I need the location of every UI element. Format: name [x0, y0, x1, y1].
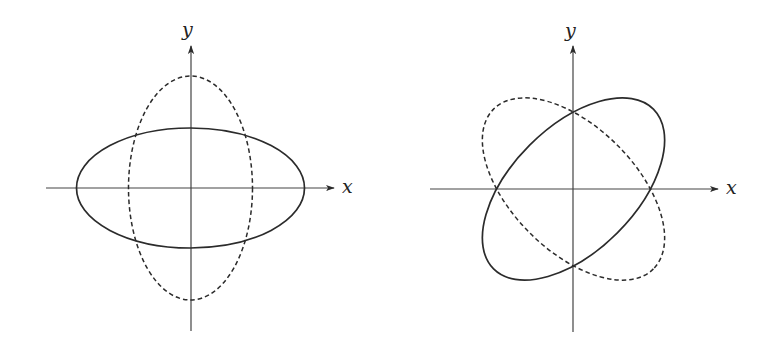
right-x-label: x [726, 176, 737, 198]
left-panel: x y [46, 18, 353, 331]
left-y-label: y [181, 18, 193, 40]
left-x-label: x [342, 175, 353, 197]
right-y-label: y [564, 19, 576, 41]
right-panel: x y [430, 19, 737, 332]
ellipse-diagram: x y x y [0, 0, 777, 349]
